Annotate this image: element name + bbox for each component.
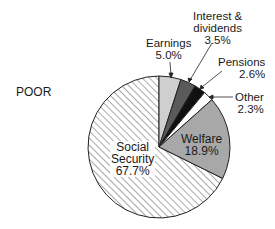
label-other: Other 2.3% — [235, 91, 264, 115]
label-other-value: 2.3% — [235, 103, 264, 115]
label-earnings: Earnings 5.0% — [146, 37, 191, 61]
label-social-security: Social Security 67.7% — [110, 141, 155, 177]
group-label: POOR — [16, 86, 51, 98]
label-ss-value: 67.7% — [111, 165, 154, 177]
label-interest-value: 3.5% — [193, 34, 242, 46]
arrowhead-interest — [188, 78, 192, 82]
label-interest-name-1: Interest & — [193, 10, 242, 22]
label-interest-name-2: dividends — [193, 22, 242, 34]
label-other-name: Other — [235, 91, 264, 103]
label-welfare-value: 18.9% — [181, 145, 222, 157]
label-earnings-value: 5.0% — [146, 49, 191, 61]
label-pensions: Pensions 2.6% — [218, 56, 265, 80]
leader-interest — [190, 43, 212, 80]
label-earnings-name: Earnings — [146, 37, 191, 49]
label-interest: Interest & dividends 3.5% — [193, 10, 242, 46]
label-pensions-name: Pensions — [218, 56, 265, 68]
label-pensions-value: 2.6% — [218, 68, 265, 80]
label-welfare: Welfare 18.9% — [181, 133, 222, 157]
